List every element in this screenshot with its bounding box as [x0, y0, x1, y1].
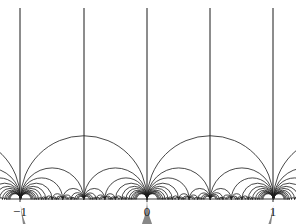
tick-label-minus-one: −1 — [13, 205, 27, 218]
tick-label-one: 1 — [270, 205, 277, 218]
figure-container: −1 0 1 — [0, 0, 296, 224]
tick-label-zero: 0 — [144, 205, 151, 218]
farey-tessellation-figure — [0, 0, 296, 224]
